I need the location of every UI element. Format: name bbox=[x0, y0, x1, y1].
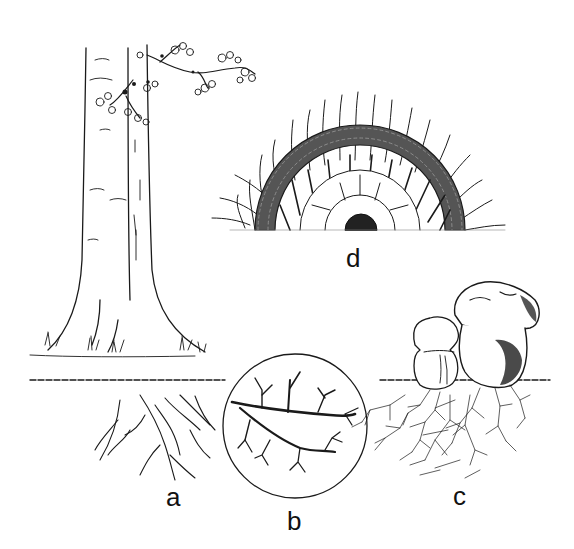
root-cross-section bbox=[212, 92, 505, 230]
label-b: b bbox=[287, 508, 301, 534]
magnified-roots bbox=[223, 354, 367, 498]
mushrooms bbox=[414, 282, 539, 389]
label-d: d bbox=[346, 245, 360, 271]
tree-roots bbox=[95, 395, 215, 480]
illustration-drawing bbox=[0, 0, 574, 549]
grass bbox=[30, 332, 206, 357]
mycelium bbox=[352, 385, 530, 478]
tree-branches bbox=[96, 43, 256, 126]
label-c: c bbox=[453, 483, 466, 509]
label-a: a bbox=[166, 484, 180, 510]
mycorrhiza-illustration: d a b c bbox=[0, 0, 574, 549]
